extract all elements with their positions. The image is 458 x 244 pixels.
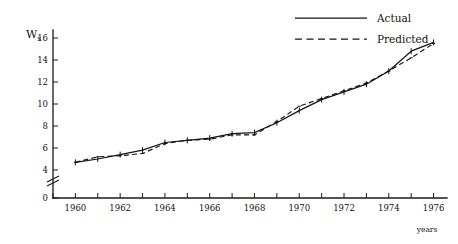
x-tick-label: 1972 — [333, 203, 355, 213]
x-tick-label: 1968 — [244, 203, 266, 213]
x-tick-label: 1966 — [199, 203, 221, 213]
x-tick-label: 1962 — [109, 203, 131, 213]
y-axis-title-subscript: s — [37, 34, 41, 43]
x-tick-label: 1976 — [423, 203, 445, 213]
y-axis-tick-labels: 046810121416 — [37, 33, 48, 203]
series-line-actual — [75, 42, 433, 162]
x-axis: 196019621964196619681970197219741976 yea… — [53, 193, 447, 234]
y-tick-label: 8 — [43, 121, 48, 131]
y-axis-title-base: W — [26, 28, 38, 41]
series-line-predicted — [75, 44, 433, 163]
y-axis: 046810121416 Ws — [26, 28, 59, 203]
chart-legend: Actual Predicted — [295, 12, 429, 45]
x-axis-ticks — [53, 193, 434, 198]
y-tick-label: 10 — [37, 99, 48, 109]
y-axis-title: Ws — [26, 28, 41, 43]
series-markers-actual — [75, 39, 433, 165]
legend-label-actual: Actual — [376, 12, 412, 24]
x-tick-label: 1974 — [378, 203, 400, 213]
y-tick-label: 6 — [43, 143, 48, 153]
x-axis-tick-labels: 196019621964196619681970197219741976 — [65, 203, 445, 213]
chart-figure: Actual Predicted 046810121416 Ws 1960196… — [0, 0, 458, 244]
y-tick-label: 12 — [37, 77, 48, 87]
chart-plot-area — [74, 39, 435, 165]
y-tick-label: 0 — [43, 193, 48, 203]
series-markers-predicted — [74, 44, 435, 163]
x-axis-title: years — [416, 225, 438, 234]
x-tick-label: 1970 — [288, 203, 310, 213]
y-tick-label: 14 — [37, 55, 48, 65]
x-tick-label: 1960 — [65, 203, 87, 213]
y-tick-label: 4 — [43, 165, 48, 175]
line-chart: Actual Predicted 046810121416 Ws 1960196… — [0, 0, 458, 244]
y-axis-ticks — [53, 38, 58, 198]
x-tick-label: 1964 — [154, 203, 176, 213]
legend-label-predicted: Predicted — [377, 33, 429, 45]
